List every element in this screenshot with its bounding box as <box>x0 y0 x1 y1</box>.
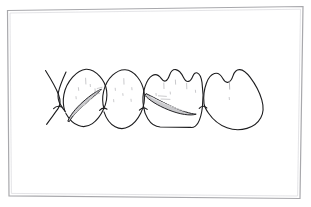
illustration-figure: Dental illustration: four teeth in bucca… <box>0 0 311 207</box>
dental-illustration-canvas <box>0 0 311 207</box>
